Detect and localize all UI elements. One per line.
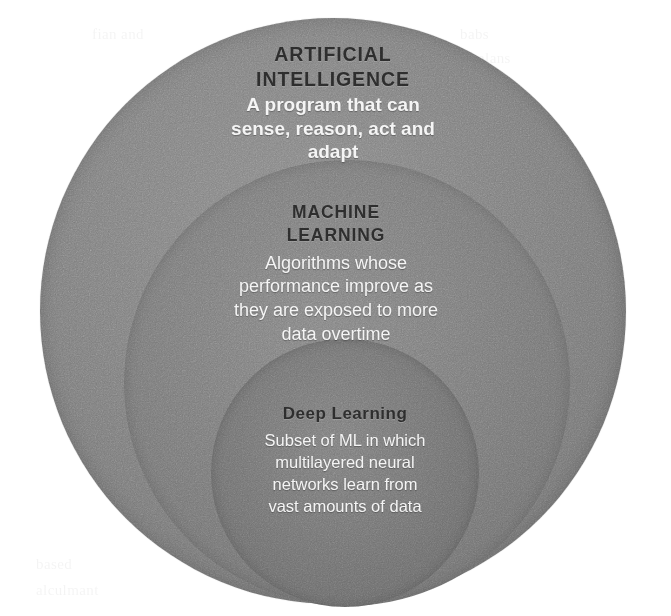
description-line: networks learn from [219, 474, 471, 496]
heading-deep-learning: Deep Learning [219, 404, 471, 424]
description-deep-learning: Subset of ML in which multilayered neura… [219, 430, 471, 518]
description-artificial-intelligence: A program that can sense, reason, act an… [183, 93, 483, 164]
background-ghost-text: fian and [92, 26, 144, 43]
label-deep-learning: Deep Learning Subset of ML in which mult… [219, 404, 471, 518]
diagram-canvas: fian and babs alans and tha based alculm… [0, 0, 671, 616]
description-line: data overtime [200, 323, 472, 347]
background-ghost-text: based [36, 556, 72, 573]
description-line: multilayered neural [219, 452, 471, 474]
heading-line: ARTIFICIAL [183, 42, 483, 67]
label-machine-learning: MACHINE LEARNING Algorithms whose perfor… [200, 201, 472, 347]
heading-line: MACHINE [200, 201, 472, 224]
heading-line: INTELLIGENCE [183, 67, 483, 92]
background-ghost-text: babs [460, 26, 489, 43]
description-line: sense, reason, act and [183, 117, 483, 141]
description-machine-learning: Algorithms whose performance improve as … [200, 252, 472, 347]
heading-machine-learning: MACHINE LEARNING [200, 201, 472, 247]
description-line: adapt [183, 140, 483, 164]
description-line: they are exposed to more [200, 299, 472, 323]
description-line: performance improve as [200, 275, 472, 299]
background-ghost-text: alculmant [36, 582, 99, 599]
heading-artificial-intelligence: ARTIFICIAL INTELLIGENCE [183, 42, 483, 91]
description-line: vast amounts of data [219, 496, 471, 518]
heading-line: LEARNING [200, 224, 472, 247]
label-artificial-intelligence: ARTIFICIAL INTELLIGENCE A program that c… [183, 42, 483, 164]
description-line: A program that can [183, 93, 483, 117]
description-line: Subset of ML in which [219, 430, 471, 452]
description-line: Algorithms whose [200, 252, 472, 276]
